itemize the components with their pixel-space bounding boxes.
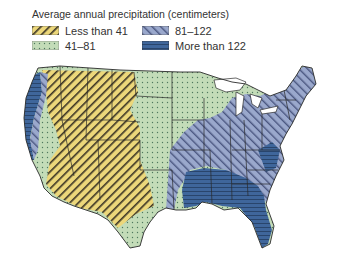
legend-item-41-81: 41–81: [32, 39, 142, 52]
swatch-lines-darkblue-icon: [142, 41, 169, 50]
us-precipitation-map: [0, 55, 344, 262]
swatch-hatch-blue-icon: [142, 26, 169, 35]
swatch-hatch-yellow-icon: [32, 26, 59, 35]
legend-title: Average annual precipitation (centimeter…: [32, 8, 332, 20]
legend-item-more-than-122: More than 122: [142, 39, 292, 52]
legend: Average annual precipitation (centimeter…: [32, 8, 332, 52]
legend-item-81-122: 81–122: [142, 24, 292, 37]
swatch-dots-green-icon: [32, 41, 59, 50]
legend-item-less-than-41: Less than 41: [32, 24, 142, 37]
